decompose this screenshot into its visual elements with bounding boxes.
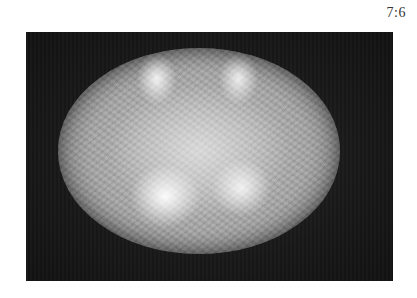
photograph — [26, 32, 393, 281]
aspect-ratio-label: 7:6 — [387, 5, 406, 21]
elliptical-disc — [58, 48, 340, 254]
